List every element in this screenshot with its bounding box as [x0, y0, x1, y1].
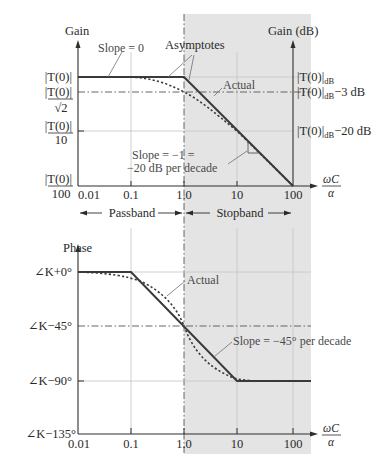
- phase-x-tick-0.01: 0.01: [68, 437, 90, 451]
- phase-y-tick-0: ∠K+0°: [34, 265, 72, 279]
- slope-neg1-label-line2: −20 dB per decade: [127, 161, 217, 175]
- gain-y-arrow-icon: [76, 40, 81, 48]
- phase-x-tick-100: 100: [284, 437, 303, 451]
- gain-y-axis-label: Gain: [65, 24, 90, 38]
- gain-x-tick-10: 10: [231, 188, 244, 202]
- gain-actual-label: Actual: [223, 78, 256, 92]
- gain-x-tick-0.1: 0.1: [123, 188, 139, 202]
- phase-x-tick-0.1: 0.1: [123, 437, 139, 451]
- passband-left-arrow-icon: [80, 211, 87, 216]
- gain-y-tick-tenth: |T(0)| 10: [45, 119, 73, 147]
- gain-y-tick-hundredth: |T(0)| 100: [45, 172, 73, 201]
- gain-db-tick-0: |T(0)|dB: [297, 70, 334, 86]
- phase-y-axis-label: Phase: [63, 241, 93, 255]
- svg-text:10: 10: [55, 133, 68, 147]
- gain-db-tick-3: |T(0)|dB−3 dB: [297, 85, 365, 101]
- gain-x-axis-label: ωC α: [322, 173, 341, 199]
- gain-y-tick-root2: |T(0)| √2: [45, 85, 73, 115]
- stopband-label: Stopband: [216, 206, 264, 220]
- svg-text:|T(0)|: |T(0)|: [45, 70, 72, 84]
- gain-x-tick-100: 100: [284, 188, 303, 202]
- phase-x-tick-10: 10: [231, 437, 244, 451]
- phase-actual-label: Actual: [187, 273, 220, 287]
- phase-slope-label: Slope = −45° per decade: [233, 334, 351, 348]
- passband-label: Passband: [109, 206, 156, 220]
- svg-text:|T(0)|: |T(0)|: [45, 85, 72, 99]
- svg-text:√2: √2: [54, 101, 67, 115]
- svg-text:α: α: [328, 187, 335, 199]
- phase-x-axis-label: ωC α: [322, 422, 341, 448]
- svg-text:ωC: ωC: [323, 173, 339, 185]
- phase-x-tick-1.0: 1.0: [176, 437, 192, 451]
- gain-y-tick-t0: |T(0)|: [45, 70, 72, 84]
- gain-db-axis-label: Gain (dB): [268, 24, 318, 38]
- svg-text:|T(0)|: |T(0)|: [45, 119, 72, 133]
- slope-zero-label: Slope = 0: [98, 41, 144, 55]
- gain-x-tick-0.01: 0.01: [78, 188, 100, 202]
- passband-right-arrow-icon: [175, 211, 182, 216]
- gain-db-tick-20: |T(0)|dB−20 dB: [297, 124, 371, 140]
- phase-y-tick-90: ∠K−90°: [28, 374, 72, 388]
- svg-text:α: α: [328, 436, 335, 448]
- gain-x-arrow-icon: [310, 184, 318, 189]
- asymptotes-label: Asymptotes: [165, 38, 225, 52]
- phase-y-tick-45: ∠K−45°: [28, 319, 72, 333]
- phase-x-arrow-icon: [310, 432, 318, 437]
- svg-text:|T(0)|: |T(0)|: [45, 172, 72, 186]
- slope-neg1-label-line1: Slope = −1 =: [132, 148, 195, 162]
- svg-text:100: 100: [52, 187, 71, 201]
- gain-x-tick-1.0: 1.0: [176, 188, 192, 202]
- svg-text:ωC: ωC: [323, 422, 339, 434]
- bode-plot-diagram: Gain Gain (dB) |T(0)| |T(0)| √2 |T(0)| 1…: [0, 0, 387, 473]
